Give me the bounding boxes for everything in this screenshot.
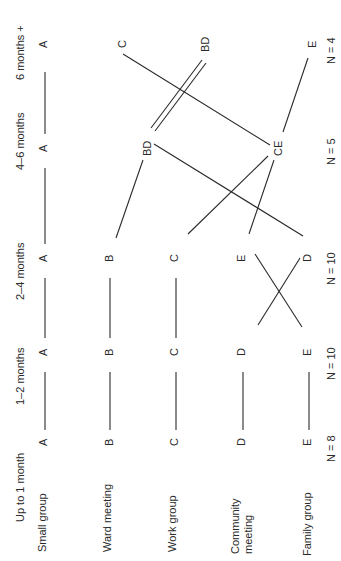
- group-label-family-group: Family group: [301, 492, 313, 556]
- rank-order-diagram: Up to 1 month 1–2 months 2–4 months 4–6 …: [0, 0, 341, 561]
- group-label-work-group: Work group: [166, 495, 178, 552]
- connector-c-p2-ce-p3: [188, 156, 268, 234]
- node-p2-b: B: [103, 255, 115, 262]
- node-p1-c: C: [168, 348, 180, 356]
- node-p2-e: E: [235, 255, 247, 262]
- node-p2-a: A: [37, 254, 49, 262]
- n-count-period-2: N = 10: [325, 252, 337, 285]
- connector-bd-p3-p4-2: [155, 63, 206, 131]
- n-count-period-1: N = 10: [325, 347, 337, 380]
- node-p4-bd: BD: [199, 37, 211, 52]
- node-p1-b: B: [103, 349, 115, 356]
- period-label-1-2-months: 1–2 months: [14, 347, 26, 405]
- node-p1-a: A: [37, 348, 49, 356]
- node-p4-a: A: [37, 40, 49, 48]
- connector-b-p2-bd-p3: [116, 160, 143, 238]
- node-p0-e: E: [301, 439, 313, 446]
- node-p3-a: A: [37, 144, 49, 152]
- node-p2-d: D: [301, 254, 313, 262]
- connector-d-p2-bd-p3: [154, 144, 303, 236]
- connector-bd-p3-p4-1: [151, 60, 202, 128]
- node-p0-a: A: [37, 438, 49, 446]
- n-count-period-4: N = 4: [325, 37, 337, 64]
- node-p1-e: E: [301, 349, 313, 356]
- period-label-4-6-months: 4–6 months: [14, 112, 26, 170]
- node-p0-c: C: [168, 438, 180, 446]
- node-p3-ce: CE: [272, 141, 284, 156]
- group-label-community-line1: Community: [229, 498, 241, 554]
- node-p4-e: E: [306, 41, 318, 48]
- period-label-2-4-months: 2–4 months: [14, 242, 26, 300]
- node-p4-c: C: [116, 40, 128, 48]
- n-count-period-3: N = 5: [325, 138, 337, 165]
- node-p0-d: D: [235, 438, 247, 446]
- connector-ce-p3-e-p4: [283, 58, 308, 132]
- period-label-up-to-1-month: Up to 1 month: [14, 453, 26, 522]
- node-p0-b: B: [103, 439, 115, 446]
- node-p2-c: C: [168, 254, 180, 262]
- group-label-community-line2: meeting: [242, 515, 254, 554]
- node-p1-d: D: [235, 348, 247, 356]
- group-label-small-group: Small group: [36, 493, 48, 552]
- node-p3-bd: BD: [141, 141, 153, 156]
- n-count-period-0: N = 8: [325, 435, 337, 462]
- connector-e-p1-p2: [255, 254, 302, 327]
- period-label-6-months-plus: 6 months +: [14, 25, 26, 80]
- group-label-ward-meeting: Ward meeting: [101, 484, 113, 552]
